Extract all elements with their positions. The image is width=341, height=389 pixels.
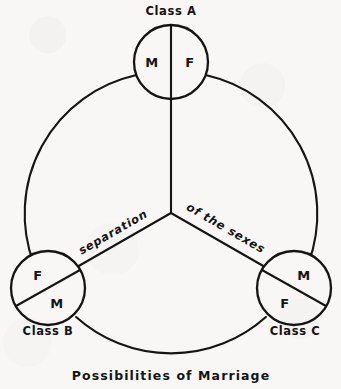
figure-page: Class A M F Class B F M Class C M F sepa… (0, 0, 341, 389)
class-c-label: Class C (270, 324, 320, 338)
figure-caption: Possibilities of Marriage (72, 368, 270, 383)
class-a-label: Class A (146, 4, 197, 18)
class-b-male-label: M (50, 296, 64, 311)
class-b-female-label: F (33, 268, 42, 283)
class-a-female-label: F (185, 55, 194, 70)
class-b-label: Class B (23, 324, 74, 338)
class-c-female-label: F (280, 296, 289, 311)
class-c-male-label: M (297, 268, 311, 283)
ring-arc-c-to-b (76, 317, 266, 353)
class-a-male-label: M (145, 55, 159, 70)
